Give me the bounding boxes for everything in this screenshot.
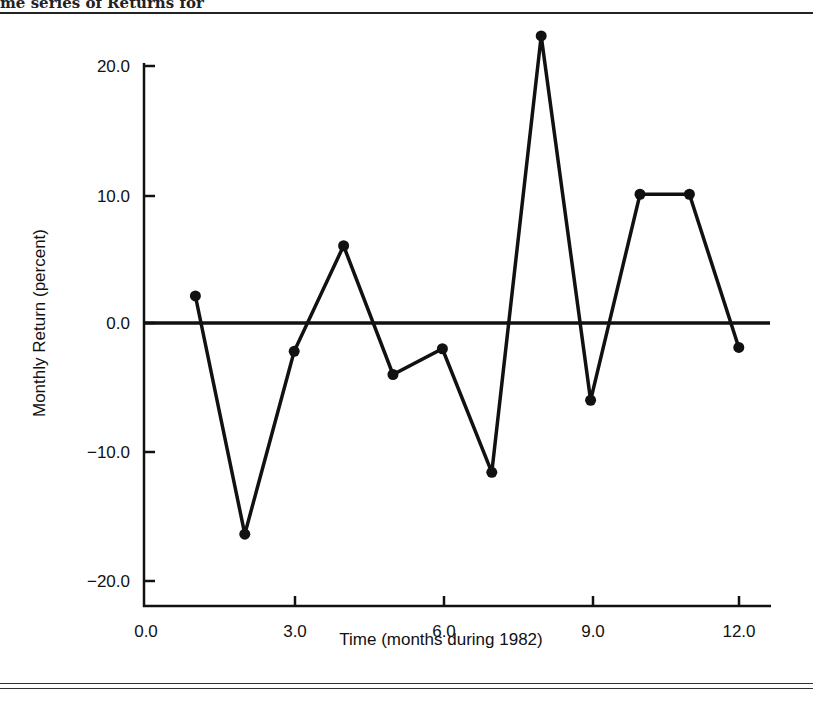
- axes: [144, 63, 771, 606]
- data-point: [536, 30, 547, 41]
- x-tick-label: 9.0: [581, 622, 605, 641]
- data-point: [486, 467, 497, 478]
- x-tick-label: 0.0: [134, 622, 158, 641]
- data-point: [635, 189, 646, 200]
- data-series: [190, 30, 744, 539]
- axis-lines: [144, 63, 771, 606]
- bottom-rule-secondary: [0, 688, 813, 689]
- x-tick-label: 3.0: [283, 622, 307, 641]
- bottom-rule: [0, 683, 813, 684]
- series-line: [195, 36, 738, 534]
- y-tick-label: −20.0: [87, 572, 130, 591]
- data-point: [289, 346, 300, 357]
- data-point: [437, 343, 448, 354]
- data-point: [190, 290, 201, 301]
- data-point: [338, 240, 349, 251]
- y-tick-label: 20.0: [97, 57, 130, 76]
- x-axis-label: Time (months during 1982): [339, 630, 542, 649]
- line-chart: 20.010.00.0−10.0−20.0 0.03.06.09.012.0 T…: [0, 0, 813, 720]
- data-point: [239, 529, 250, 540]
- y-tick-label: 0.0: [106, 314, 130, 333]
- data-point: [733, 342, 744, 353]
- data-point: [388, 369, 399, 380]
- y-tick-label: −10.0: [87, 443, 130, 462]
- y-tick-label: 10.0: [97, 187, 130, 206]
- y-axis-label: Monthly Return (percent): [30, 229, 49, 417]
- x-tick-label: 12.0: [722, 622, 755, 641]
- data-point: [585, 395, 596, 406]
- data-point: [684, 189, 695, 200]
